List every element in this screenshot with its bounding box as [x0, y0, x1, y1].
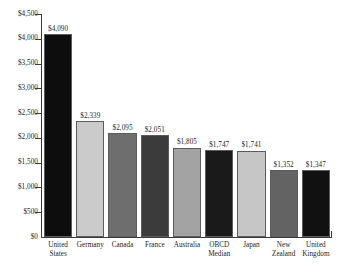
bar-group: $1,741 — [237, 14, 265, 237]
y-axis-tick-mark — [35, 64, 42, 65]
y-axis-tick-mark — [35, 39, 42, 40]
y-axis-tick-label: $4,000 — [0, 34, 38, 42]
y-axis-tick-mark — [35, 212, 42, 213]
x-axis-category-label: Australia — [169, 241, 205, 250]
x-axis-category-label: France — [137, 241, 173, 250]
y-axis-tick-mark — [35, 113, 42, 114]
x-axis-category-label: UnitedKingdom — [298, 241, 334, 259]
bar[interactable] — [44, 34, 72, 237]
bar[interactable] — [76, 121, 104, 237]
bar-value-label: $1,805 — [177, 138, 197, 146]
y-axis-tick-label: $4,500 — [0, 10, 38, 18]
x-axis-category-label: NewZealand — [266, 241, 302, 259]
y-axis-tick-label: $1,500 — [0, 158, 38, 166]
bar-group: $1,747 — [205, 14, 233, 237]
bar-group: $2,095 — [108, 14, 136, 237]
bar-group: $1,347 — [302, 14, 330, 237]
x-axis-category-line: Kingdom — [298, 250, 334, 259]
x-axis-category-line: United — [40, 241, 76, 250]
x-axis-line — [41, 237, 332, 238]
bar-group: $4,090 — [44, 14, 72, 237]
y-axis-tick-label: $3,500 — [0, 59, 38, 67]
bar-value-label: $1,347 — [306, 161, 326, 169]
x-axis-category-line: Australia — [169, 241, 205, 250]
x-axis-category-label: OBCDMedian — [201, 241, 237, 259]
x-axis-category-line: OBCD — [201, 241, 237, 250]
x-axis-category-line: New — [266, 241, 302, 250]
bar-value-label: $4,090 — [48, 25, 68, 33]
x-axis-category-line: United — [298, 241, 334, 250]
y-axis-tick-mark — [35, 88, 42, 89]
y-axis-tick-label: $1,000 — [0, 183, 38, 191]
y-axis-tick-label: $2,000 — [0, 133, 38, 141]
x-axis-category-label: Germany — [72, 241, 108, 250]
y-axis-tick-label: $0 — [0, 233, 38, 241]
bar[interactable] — [205, 150, 233, 237]
y-axis-tick-label: $2,500 — [0, 109, 38, 117]
y-axis-tick-mark — [35, 138, 42, 139]
bar-value-label: $2,051 — [145, 126, 165, 134]
bar-value-label: $1,747 — [209, 141, 229, 149]
y-axis-tick-mark — [35, 14, 42, 15]
x-axis-category-label: Canada — [104, 241, 140, 250]
bar-group: $1,805 — [173, 14, 201, 237]
x-axis-category-line: Japan — [233, 241, 269, 250]
y-axis-tick-label: $500 — [0, 208, 38, 216]
bar-value-label: $1,352 — [274, 161, 294, 169]
bar[interactable] — [173, 148, 201, 237]
bar-group: $2,339 — [76, 14, 104, 237]
y-axis: $4,500$4,000$3,500$3,000$2,500$2,000$1,5… — [0, 0, 38, 280]
x-axis-category-label: UnitedStates — [40, 241, 76, 259]
bar[interactable] — [302, 170, 330, 237]
x-axis-category-label: Japan — [233, 241, 269, 250]
x-axis-category-line: Germany — [72, 241, 108, 250]
bar[interactable] — [237, 151, 265, 237]
x-axis-category-line: Canada — [104, 241, 140, 250]
bar[interactable] — [141, 135, 169, 237]
x-axis-category-line: Median — [201, 250, 237, 259]
x-axis-category-line: Zealand — [266, 250, 302, 259]
y-axis-tick-mark — [35, 163, 42, 164]
x-axis-categories: UnitedStatesGermanyCanadaFranceAustralia… — [42, 241, 332, 277]
plot-area: $4,090$2,339$2,095$2,051$1,805$1,747$1,7… — [42, 14, 332, 237]
bar-group: $1,352 — [270, 14, 298, 237]
bar-value-label: $2,339 — [80, 112, 100, 120]
bar-chart: $4,500$4,000$3,500$3,000$2,500$2,000$1,5… — [0, 0, 345, 280]
bar-value-label: $1,741 — [241, 141, 261, 149]
y-axis-tick-mark — [35, 187, 42, 188]
x-axis-category-line: States — [40, 250, 76, 259]
bar[interactable] — [270, 170, 298, 237]
bar-value-label: $2,095 — [113, 124, 133, 132]
x-axis-category-line: France — [137, 241, 173, 250]
bar[interactable] — [108, 133, 136, 237]
y-axis-tick-label: $3,000 — [0, 84, 38, 92]
bar-group: $2,051 — [141, 14, 169, 237]
